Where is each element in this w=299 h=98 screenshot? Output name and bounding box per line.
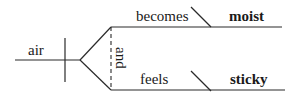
predicate-2-complement: sticky: [230, 71, 268, 87]
conjunction-word: and: [113, 47, 129, 69]
fork-lower-branch: [80, 60, 111, 90]
fork-upper-branch: [80, 27, 111, 60]
predicate-1-complement: moist: [229, 8, 264, 24]
sentence-diagram: air and becomes moist feels sticky: [0, 0, 299, 98]
subject-word: air: [28, 42, 44, 58]
predicate-2-complement-slash: [191, 71, 211, 91]
predicate-2-verb: feels: [140, 71, 168, 87]
predicate-1-verb: becomes: [136, 8, 189, 24]
predicate-1-complement-slash: [191, 7, 211, 27]
